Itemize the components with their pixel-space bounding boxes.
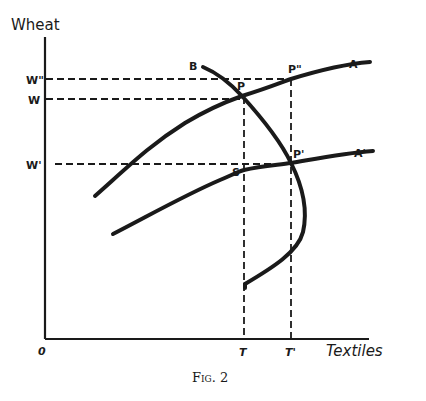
- curve-label-b: B: [189, 60, 197, 73]
- tick-label-t-prime: T': [285, 346, 296, 359]
- tick-label-w: W: [28, 94, 40, 107]
- point-label-p: P: [237, 80, 245, 93]
- tick-label-w-prime: W': [26, 159, 42, 172]
- y-axis-label: Wheat: [11, 16, 60, 34]
- point-label-p-double-prime: P": [288, 63, 302, 76]
- curve-label-a-prime: A': [354, 147, 366, 160]
- x-axis-label: Textiles: [326, 342, 383, 360]
- tick-label-t: T: [239, 346, 248, 359]
- curve-label-a: A: [349, 58, 358, 71]
- point-label-p-prime: P': [293, 148, 304, 161]
- tick-label-w-double-prime: W": [26, 74, 44, 87]
- origin-label: 0: [38, 345, 46, 358]
- diagram-canvas: Wheat Textiles 0 W" W W' T T' A A' B P P…: [0, 0, 426, 401]
- curve-b: [203, 67, 305, 284]
- point-label-s: S: [232, 166, 240, 179]
- figure-caption: Fig. 2: [192, 370, 228, 385]
